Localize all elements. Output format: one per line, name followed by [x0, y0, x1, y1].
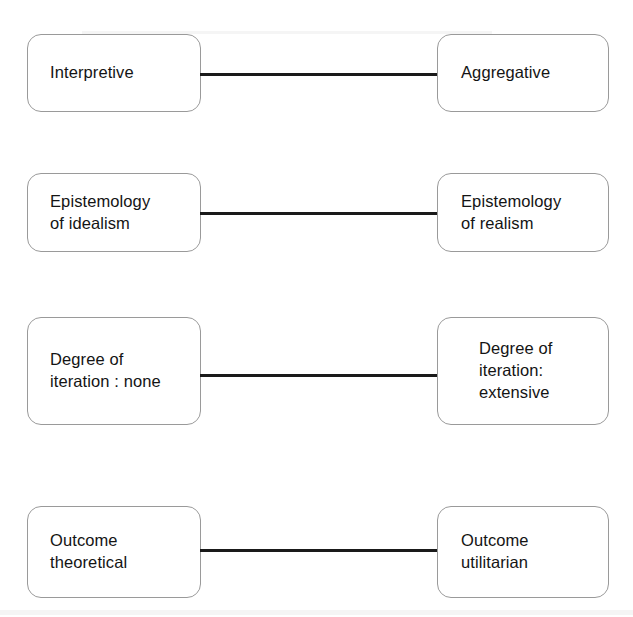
node-label: Outcome theoretical [28, 530, 200, 574]
node-right-epistemology-realism[interactable]: Epistemology of realism [437, 173, 609, 252]
node-left-outcome-theoretical[interactable]: Outcome theoretical [27, 506, 201, 598]
node-label: Epistemology of idealism [28, 191, 200, 235]
node-right-degree-iteration-extensive[interactable]: Degree of iteration: extensive [437, 317, 609, 425]
node-label: Degree of iteration: extensive [438, 338, 608, 403]
connector-row-3 [200, 374, 438, 377]
diagram-row-4: Outcome theoretical Outcome utilitarian [0, 0, 633, 150]
node-label: Outcome utilitarian [438, 530, 608, 574]
node-label: Degree of iteration : none [28, 349, 200, 393]
connector-row-2 [200, 212, 438, 215]
scan-artifact-bottom [0, 610, 633, 615]
node-left-epistemology-idealism[interactable]: Epistemology of idealism [27, 173, 201, 252]
node-left-degree-iteration-none[interactable]: Degree of iteration : none [27, 317, 201, 425]
node-label: Epistemology of realism [438, 191, 608, 235]
node-right-outcome-utilitarian[interactable]: Outcome utilitarian [437, 506, 609, 598]
connector-row-4 [200, 549, 438, 552]
diagram-canvas: Interpretive Aggregative Epistemology of… [0, 0, 633, 617]
